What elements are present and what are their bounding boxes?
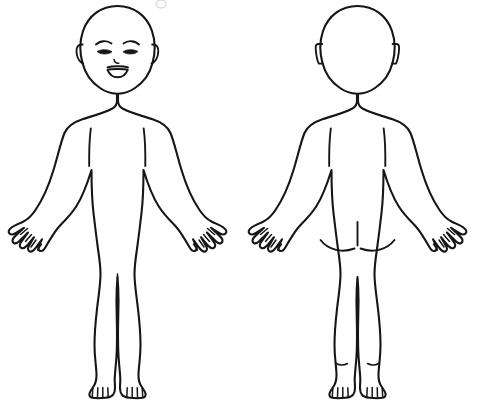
body-diagram-page: Front view Back view Pediatric Body Outl…: [0, 0, 478, 406]
posterior-body-outline: [249, 6, 467, 398]
scan-artifact-icon: [156, 0, 166, 8]
body-chart-canvas: [0, 0, 478, 406]
anterior-right-eye: [123, 50, 138, 54]
anterior-left-eye: [97, 50, 112, 54]
figure-anterior[interactable]: [9, 6, 227, 398]
anterior-body-outline: [9, 6, 227, 398]
figure-posterior[interactable]: [249, 6, 467, 398]
